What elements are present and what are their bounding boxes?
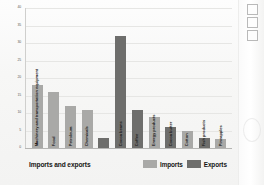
bar-group[interactable]: Chemicals [82, 8, 93, 148]
bar-group[interactable]: Petroleum [65, 8, 76, 148]
y-tick-label: 10 [17, 111, 21, 114]
bar-group[interactable]: Machinery and transportation equipment [32, 8, 43, 148]
edge-mark [247, 30, 258, 41]
x-axis-line [25, 148, 232, 149]
x-axis-title: Imports and exports [29, 161, 91, 168]
page-edge-marks [247, 4, 259, 44]
legend-label-exports: Exports [204, 161, 227, 168]
legend-label-imports: Imports [160, 161, 183, 168]
bar-category-label: Cotton [185, 133, 189, 146]
y-tick-label: 0 [19, 146, 21, 149]
bar-category-label: Fish products [202, 120, 206, 146]
bar-group[interactable]: Pineapples [215, 8, 226, 148]
bar-category-label: Energy products [152, 114, 156, 146]
y-tick-label: 25 [17, 59, 21, 62]
y-tick-label: 5 [19, 129, 21, 132]
page-edge-smudge [243, 118, 261, 142]
y-tick-label: 30 [17, 41, 21, 44]
bar-group[interactable]: Cocoa butter [165, 8, 176, 148]
y-tick-label: 15 [17, 94, 21, 97]
bars-container: Machinery and transportation equipmentFo… [26, 8, 232, 148]
bar-chart: 0510152025303540 Percentage of total Mac… [0, 0, 238, 185]
bar-category-label: Coffee [135, 134, 139, 146]
bar-category-label: Cocoa beans [118, 121, 122, 146]
bar-group[interactable]: Fish products [199, 8, 210, 148]
legend-swatch-exports [187, 160, 201, 168]
bar-category-label: Machinery and transportation equipment [35, 69, 39, 146]
bar[interactable] [98, 138, 109, 149]
bar-category-label: Food [52, 136, 56, 146]
edge-mark [247, 4, 258, 15]
bar-group[interactable]: Cotton [182, 8, 193, 148]
y-axis-tick-labels: 0510152025303540 [0, 8, 24, 148]
y-tick-label: 40 [17, 6, 21, 9]
legend-swatch-imports [143, 160, 157, 168]
bar-category-label: Petroleum [68, 126, 72, 146]
bar-group[interactable]: Energy products [149, 8, 160, 148]
bar-group[interactable]: Cocoa beans [115, 8, 126, 148]
chart-legend: Imports Exports [143, 160, 227, 168]
bar-group[interactable] [98, 8, 109, 148]
legend-item-exports: Exports [187, 160, 227, 168]
bar-group[interactable]: Food [48, 8, 59, 148]
y-tick-label: 35 [17, 24, 21, 27]
bar-category-label: Cocoa butter [169, 121, 173, 146]
bar-category-label: Pineapples [219, 125, 223, 146]
y-tick-label: 20 [17, 76, 21, 79]
edge-mark [247, 17, 258, 28]
bar-group[interactable]: Coffee [132, 8, 143, 148]
bar-category-label: Chemicals [85, 126, 89, 146]
legend-item-imports: Imports [143, 160, 183, 168]
